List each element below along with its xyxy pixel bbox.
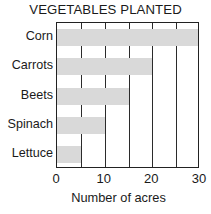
y-axis-label-spinach: Spinach xyxy=(1,116,53,133)
x-axis-tick-0: 0 xyxy=(52,170,59,188)
plot-area xyxy=(56,22,199,168)
y-axis-label-corn: Corn xyxy=(1,28,53,45)
bar-spinach xyxy=(57,117,105,134)
y-axis-label-lettuce: Lettuce xyxy=(1,145,53,162)
bar-row xyxy=(57,146,199,163)
y-axis-label-beets: Beets xyxy=(1,87,53,104)
bar-lettuce xyxy=(57,146,81,163)
y-axis-category-labels: CornCarrotsBeetsSpinachLettuce xyxy=(0,22,53,168)
y-axis-label-carrots: Carrots xyxy=(1,57,53,74)
bar-row xyxy=(57,88,199,105)
bar-row xyxy=(57,29,199,46)
x-axis-tick-30: 30 xyxy=(192,170,206,188)
bar-beets xyxy=(57,88,129,105)
x-axis-title: Number of acres xyxy=(36,190,201,205)
x-axis-tick-labels: 0102030 xyxy=(0,170,211,188)
x-axis-tick-10: 10 xyxy=(96,170,110,188)
bar-corn xyxy=(57,29,199,46)
x-axis-tick-20: 20 xyxy=(144,170,158,188)
bar-chart: VEGETABLES PLANTED CornCarrotsBeetsSpina… xyxy=(0,0,211,214)
bar-row xyxy=(57,58,199,75)
chart-title: VEGETABLES PLANTED xyxy=(0,2,211,17)
bar-carrots xyxy=(57,58,152,75)
bar-row xyxy=(57,117,199,134)
